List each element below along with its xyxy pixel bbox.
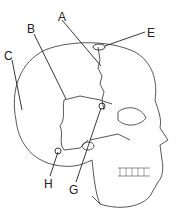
label-b: B [27, 23, 35, 35]
label-h: H [44, 178, 53, 190]
label-a: A [58, 11, 66, 23]
label-g: G [69, 184, 78, 196]
label-e: E [147, 27, 155, 39]
label-c: C [4, 50, 13, 62]
